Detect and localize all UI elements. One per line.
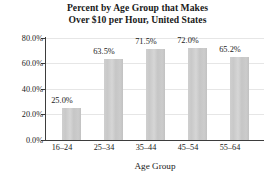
- bar: [104, 59, 123, 140]
- bar-chart: Percent by Age Group that Makes Over $10…: [0, 0, 275, 182]
- bar-value-label: 63.5%: [82, 48, 126, 56]
- chart-title-line-2: Over $10 per Hour, United States: [0, 14, 275, 26]
- y-axis-tick-label: 40.0%: [0, 86, 43, 94]
- bar-value-label: 72.0%: [166, 37, 210, 45]
- x-axis-tick-label: 25–34: [82, 144, 126, 152]
- bar: [230, 57, 249, 140]
- bar: [62, 108, 81, 140]
- y-axis-tick-label: 60.0%: [0, 60, 43, 68]
- bar: [146, 49, 165, 140]
- bar-value-label: 25.0%: [40, 97, 84, 105]
- x-axis-tick-label: 16–24: [40, 144, 84, 152]
- y-axis-tick-label: 80.0%: [0, 35, 43, 43]
- bar: [188, 48, 207, 140]
- chart-title: Percent by Age Group that Makes Over $10…: [0, 2, 275, 25]
- y-axis-tick-label: 0.0%: [0, 137, 43, 145]
- x-axis-tick-label: 45–54: [166, 144, 210, 152]
- x-axis-tick-label: 35–44: [124, 144, 168, 152]
- x-axis-line: [45, 140, 264, 141]
- x-axis-tick-label: 55–64: [208, 144, 252, 152]
- chart-title-line-1: Percent by Age Group that Makes: [0, 2, 275, 14]
- bar-value-label: 71.5%: [124, 38, 168, 46]
- bar-value-label: 65.2%: [208, 46, 252, 54]
- y-axis-tick-label: 20.0%: [0, 111, 43, 119]
- x-axis-title: Age Group: [46, 162, 264, 171]
